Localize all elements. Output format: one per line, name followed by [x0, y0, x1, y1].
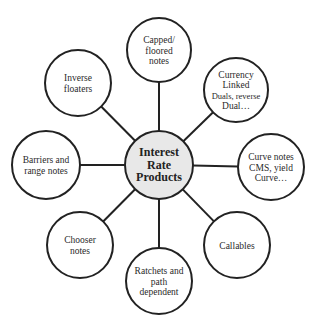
node-barriers-range-notes: Barriers andrange notes [12, 131, 80, 199]
node-label-line: Chooser [64, 235, 97, 245]
node-label-line: Barriers and [23, 155, 70, 165]
interest-rate-products-diagram: Capped/floorednotesCurrencyLinkedDuals, … [0, 0, 318, 331]
node-label-line: Currency [218, 70, 254, 80]
connector-curve-notes [193, 166, 238, 167]
connector-callables [183, 189, 214, 221]
node-label-line: Products [136, 170, 182, 184]
center-node: InterestRateProducts [125, 131, 193, 199]
node-label-line: dependent [139, 287, 178, 297]
node-capped-floored-notes: Capped/floorednotes [127, 18, 191, 82]
node-chooser-notes: Choosernotes [47, 212, 113, 278]
connector-chooser-notes [103, 189, 135, 221]
node-label-line: floaters [64, 84, 93, 94]
node-label-line: Dual… [222, 101, 250, 111]
node-label-line: Inverse [64, 73, 92, 83]
node-curve-notes: Curve notesCMS, yieldCurve… [238, 134, 304, 200]
node-ratchets-path-dependent: Ratchets andpathdependent [126, 248, 192, 314]
node-label-line: floored [145, 46, 173, 56]
node-label-line: Curve… [255, 173, 288, 183]
node-label-line: range notes [24, 166, 68, 176]
node-label-line: Duals, reverse [212, 91, 261, 101]
node-currency-linked: CurrencyLinkedDuals, reverseDual… [204, 58, 268, 122]
node-label-line: Callables [219, 241, 255, 251]
node-callables: Callables [204, 212, 270, 278]
node-label-line: path [151, 277, 168, 287]
node-label-line: notes [70, 246, 90, 256]
node-label-line: Linked [223, 80, 250, 90]
connector-currency-linked [183, 112, 213, 141]
node-label-line: CMS, yield [249, 163, 293, 173]
connector-inverse-floaters [101, 106, 135, 140]
node-label-line: notes [149, 56, 169, 66]
node-label-line: Curve notes [248, 152, 294, 162]
node-label-line: Ratchets and [135, 266, 184, 276]
node-inverse-floaters: Inversefloaters [45, 50, 111, 116]
node-interest-rate-products: InterestRateProducts [125, 131, 193, 199]
node-label-line: Capped/ [143, 35, 175, 45]
